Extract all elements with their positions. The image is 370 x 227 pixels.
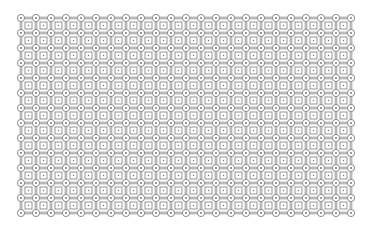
node-dot bbox=[110, 212, 112, 214]
cell-dot bbox=[343, 205, 344, 206]
node-dot bbox=[20, 62, 22, 64]
node-dot bbox=[260, 182, 262, 184]
node-dot bbox=[125, 137, 127, 139]
cell-dot bbox=[298, 115, 299, 116]
node-dot bbox=[305, 167, 307, 169]
cell-dot bbox=[193, 70, 194, 71]
node-dot bbox=[200, 212, 202, 214]
cell-dot bbox=[148, 175, 149, 176]
node-dot bbox=[125, 107, 127, 109]
node-dot bbox=[155, 212, 157, 214]
node-dot bbox=[260, 107, 262, 109]
cell-dot bbox=[268, 145, 269, 146]
node-dot bbox=[65, 62, 67, 64]
cell-dot bbox=[268, 115, 269, 116]
node-dot bbox=[50, 152, 52, 154]
node-dot bbox=[200, 17, 202, 19]
node-dot bbox=[170, 17, 172, 19]
cell-dot bbox=[58, 55, 59, 56]
cell-dot bbox=[88, 205, 89, 206]
node-dot bbox=[260, 77, 262, 79]
cell-dot bbox=[193, 85, 194, 86]
cell-dot bbox=[328, 190, 329, 191]
node-dot bbox=[95, 47, 97, 49]
cell-dot bbox=[238, 40, 239, 41]
node-dot bbox=[20, 92, 22, 94]
cell-dot bbox=[58, 205, 59, 206]
node-dot bbox=[95, 32, 97, 34]
cell-dot bbox=[313, 85, 314, 86]
cell-dot bbox=[73, 70, 74, 71]
node-dot bbox=[230, 107, 232, 109]
cell-dot bbox=[178, 40, 179, 41]
cell-dot bbox=[43, 190, 44, 191]
node-dot bbox=[200, 32, 202, 34]
cell-dot bbox=[148, 55, 149, 56]
node-dot bbox=[140, 182, 142, 184]
node-dot bbox=[125, 167, 127, 169]
node-dot bbox=[140, 197, 142, 199]
cell-dot bbox=[178, 190, 179, 191]
node-dot bbox=[110, 182, 112, 184]
cell-dot bbox=[268, 160, 269, 161]
cell-dot bbox=[58, 85, 59, 86]
cell-dot bbox=[283, 25, 284, 26]
node-dot bbox=[245, 47, 247, 49]
node-dot bbox=[50, 212, 52, 214]
cell-dot bbox=[148, 205, 149, 206]
node-dot bbox=[290, 152, 292, 154]
node-dot bbox=[200, 122, 202, 124]
node-dot bbox=[20, 212, 22, 214]
cell-dot bbox=[133, 190, 134, 191]
cell-dot bbox=[43, 160, 44, 161]
node-dot bbox=[95, 152, 97, 154]
cell-dot bbox=[103, 130, 104, 131]
cell-dot bbox=[178, 160, 179, 161]
node-dot bbox=[230, 62, 232, 64]
node-dot bbox=[20, 197, 22, 199]
node-dot bbox=[230, 197, 232, 199]
node-dot bbox=[20, 107, 22, 109]
cell-dot bbox=[103, 85, 104, 86]
cell-dot bbox=[253, 85, 254, 86]
cell-dot bbox=[58, 40, 59, 41]
node-dot bbox=[275, 182, 277, 184]
cell-dot bbox=[283, 70, 284, 71]
node-dot bbox=[50, 77, 52, 79]
cell-dot bbox=[238, 55, 239, 56]
node-dot bbox=[215, 17, 217, 19]
node-dot bbox=[35, 32, 37, 34]
node-dot bbox=[305, 47, 307, 49]
cell-dot bbox=[178, 145, 179, 146]
node-dot bbox=[215, 167, 217, 169]
cell-dot bbox=[328, 25, 329, 26]
node-dot bbox=[125, 62, 127, 64]
node-dot bbox=[215, 197, 217, 199]
cell-dot bbox=[193, 160, 194, 161]
cell-dot bbox=[298, 70, 299, 71]
cell-dot bbox=[43, 205, 44, 206]
node-dot bbox=[215, 152, 217, 154]
cell-dot bbox=[193, 25, 194, 26]
cell-dot bbox=[343, 160, 344, 161]
node-dot bbox=[50, 17, 52, 19]
node-dot bbox=[170, 167, 172, 169]
node-dot bbox=[35, 197, 37, 199]
node-dot bbox=[260, 17, 262, 19]
node-dot bbox=[290, 107, 292, 109]
cell-dot bbox=[328, 70, 329, 71]
cell-dot bbox=[133, 115, 134, 116]
node-dot bbox=[65, 167, 67, 169]
cell-dot bbox=[313, 70, 314, 71]
node-dot bbox=[290, 62, 292, 64]
cell-dot bbox=[343, 70, 344, 71]
node-dot bbox=[185, 212, 187, 214]
cell-dot bbox=[238, 130, 239, 131]
node-dot bbox=[260, 167, 262, 169]
node-dot bbox=[185, 47, 187, 49]
node-dot bbox=[350, 92, 352, 94]
node-dot bbox=[230, 47, 232, 49]
node-dot bbox=[65, 47, 67, 49]
cell-dot bbox=[238, 205, 239, 206]
node-dot bbox=[20, 77, 22, 79]
